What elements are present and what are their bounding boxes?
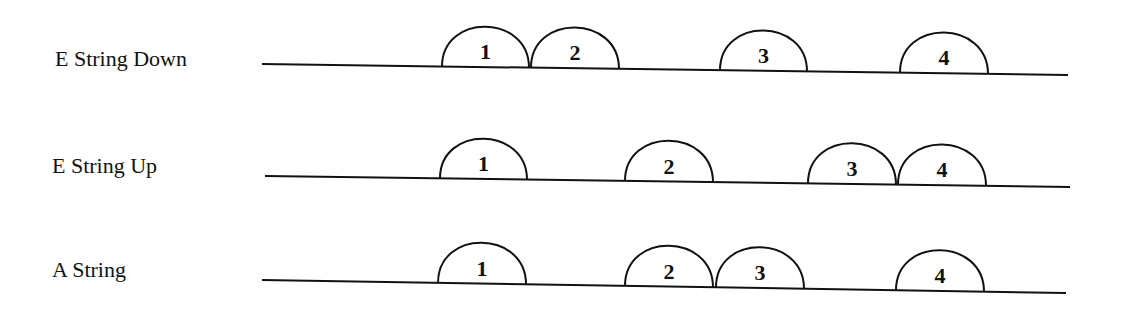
string-row: 1234 [262,27,1068,75]
finger-number: 2 [664,259,675,284]
row-label-e-string-down: E String Down [55,46,187,72]
string-fingering-diagram: E String Down E String Up A String 12341… [0,0,1121,311]
finger-number: 3 [758,43,769,68]
finger-number: 1 [480,39,491,64]
finger-number: 4 [935,263,946,288]
row-label-e-string-up: E String Up [52,153,157,179]
string-row: 1234 [265,139,1070,187]
finger-number: 4 [937,157,948,182]
finger-number: 1 [477,256,488,281]
string-row: 1234 [262,243,1066,293]
finger-number: 3 [847,156,858,181]
finger-number: 4 [939,45,950,70]
finger-number: 2 [664,154,675,179]
finger-number: 2 [570,40,581,65]
row-label-a-string: A String [52,257,126,283]
finger-number: 1 [478,151,489,176]
finger-number: 3 [755,260,766,285]
